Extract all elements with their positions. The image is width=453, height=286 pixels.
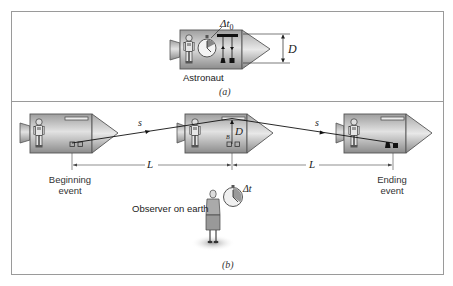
clock-label-main: Δt <box>220 17 230 29</box>
ending-event-label: Ending event <box>364 174 420 196</box>
spaceship-ending <box>336 114 432 153</box>
svg-text:B: B <box>226 134 230 140</box>
distance-label-b: D <box>235 125 243 137</box>
ending-event-line1: Ending <box>364 174 420 185</box>
spaceship-beginning <box>20 114 118 153</box>
caption-b: (b) <box>222 259 234 270</box>
light-path-arrow-1 <box>145 130 150 134</box>
beginning-event-line1: Beginning <box>40 174 100 185</box>
distance-label-a: D <box>288 42 297 57</box>
length-dimension <box>72 153 393 170</box>
time-dilation-figure: B <box>0 0 453 286</box>
observer-stopwatch-icon <box>224 185 243 207</box>
ground-shadow <box>191 235 235 251</box>
ending-event-line2: event <box>364 185 420 196</box>
caption-a: (a) <box>219 86 231 97</box>
beginning-event-label: Beginning event <box>40 174 100 196</box>
light-detector <box>230 58 235 63</box>
astronaut-label: Astronaut <box>183 72 224 83</box>
proper-time-label: Δt0 <box>220 17 234 32</box>
path-label-s-1: s <box>138 117 142 128</box>
clock-label-subscript: 0 <box>230 23 234 32</box>
dilated-time-label: Δt <box>243 183 252 194</box>
beginning-event-line2: event <box>40 185 100 196</box>
length-label-1: L <box>147 158 153 170</box>
engine-nozzle <box>170 40 180 60</box>
observer-label: Observer on earth <box>132 203 209 214</box>
figure-graphics: B <box>0 0 453 286</box>
mirror <box>217 34 238 37</box>
path-label-s-2: s <box>315 117 319 128</box>
length-label-2: L <box>309 158 315 170</box>
